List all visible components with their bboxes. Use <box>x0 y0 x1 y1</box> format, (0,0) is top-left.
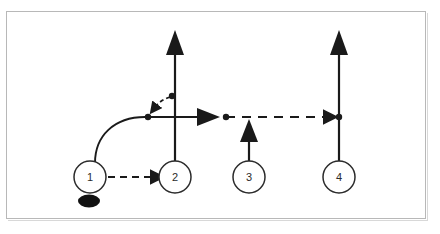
player-1-label: 1 <box>87 171 93 183</box>
marker-dot-high <box>169 93 175 99</box>
player-3-label: 3 <box>246 171 252 183</box>
skate-2-up-arrowhead <box>166 30 184 55</box>
player-1[interactable]: 1 <box>74 161 106 193</box>
drop-back-curve-path <box>156 97 170 106</box>
carry-right-arrowhead <box>197 108 220 126</box>
skate-3-up-arrowhead <box>240 119 258 142</box>
marker-dot-mid <box>223 114 229 120</box>
marker-dot-right <box>336 114 342 120</box>
player-4[interactable]: 4 <box>323 161 355 193</box>
player-4-label: 4 <box>336 171 342 183</box>
carry-right-path <box>148 108 220 126</box>
player-2[interactable]: 2 <box>159 161 191 193</box>
skate-4-up-arrowhead <box>330 30 348 55</box>
play-diagram: 1 2 3 4 <box>0 0 440 234</box>
skate-1-curve-path <box>95 117 145 163</box>
diagram-canvas: 1 2 3 4 <box>0 0 440 234</box>
marker-dot-slot <box>145 114 151 120</box>
puck-icon <box>78 195 100 208</box>
skate-3-up-path <box>240 119 258 161</box>
player-3[interactable]: 3 <box>233 161 265 193</box>
drop-back-curve-line <box>156 97 170 106</box>
player-2-label: 2 <box>172 171 178 183</box>
skate-4-up-path <box>330 30 348 161</box>
